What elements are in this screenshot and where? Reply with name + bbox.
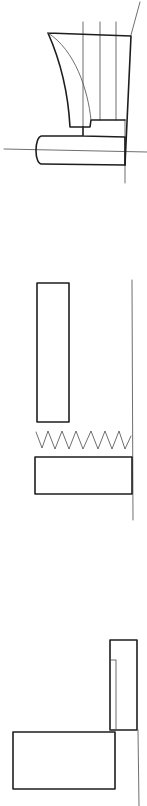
sketch-1-tapered-block-on-base bbox=[4, 2, 147, 183]
sketch-3-l-shaped-blocks bbox=[13, 640, 139, 806]
rounded-base-block bbox=[36, 127, 125, 165]
sketch-canvas bbox=[0, 0, 147, 806]
lower-wide-block bbox=[35, 457, 132, 494]
inner-strip bbox=[110, 660, 116, 730]
zigzag-spring bbox=[36, 431, 131, 449]
inner-curve-line bbox=[48, 33, 91, 120]
vertical-reference-line bbox=[138, 730, 139, 806]
upper-narrow-block bbox=[37, 283, 69, 422]
tapered-block-outline bbox=[48, 33, 131, 165]
diagonal-reference-line bbox=[131, 2, 140, 35]
sketch-2-spring-between-blocks bbox=[35, 280, 133, 520]
technical-sketches bbox=[0, 0, 147, 806]
tall-narrow-block bbox=[110, 640, 137, 730]
lower-wide-block bbox=[13, 732, 115, 789]
